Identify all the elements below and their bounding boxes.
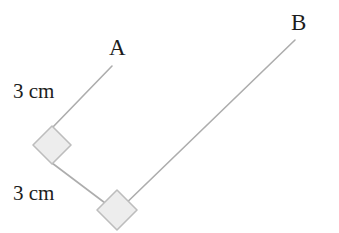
vertex-label-b: B <box>291 11 306 34</box>
vertex-label-a: A <box>109 36 126 59</box>
length-label-top: 3 cm <box>13 81 54 102</box>
segment-to-a <box>52 66 112 128</box>
geometry-diagram: A B 3 cm 3 cm <box>0 0 339 233</box>
length-label-bottom: 3 cm <box>13 183 54 204</box>
right-angle-marker-upper <box>33 126 71 164</box>
right-angle-marker-lower <box>97 190 137 230</box>
segment-to-b <box>117 40 295 212</box>
